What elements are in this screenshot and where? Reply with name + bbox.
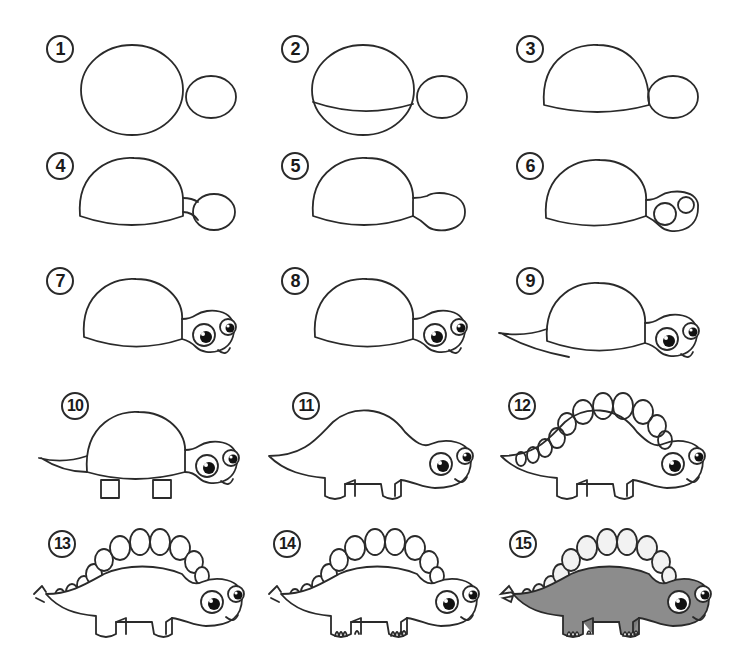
step-15-drawing <box>497 530 740 660</box>
step-panel-2: 2 <box>275 35 521 165</box>
step-13-drawing <box>30 530 276 660</box>
step-2-drawing <box>275 35 521 165</box>
step-panel-9: 9 <box>497 265 740 395</box>
step-11-drawing <box>265 392 511 522</box>
step-4-drawing <box>40 150 286 280</box>
step-panel-8: 8 <box>275 265 521 395</box>
step-6-drawing <box>510 150 740 280</box>
step-panel-6: 6 <box>510 150 740 280</box>
step-12-drawing <box>497 392 740 522</box>
step-panel-5: 5 <box>275 150 521 280</box>
step-panel-13: 13 <box>30 530 276 660</box>
step-panel-4: 4 <box>40 150 286 280</box>
step-panel-7: 7 <box>40 265 286 395</box>
step-panel-12: 12 <box>497 392 740 522</box>
step-3-drawing <box>510 35 740 165</box>
step-1-drawing <box>40 35 286 165</box>
step-14-drawing <box>265 530 511 660</box>
step-panel-14: 14 <box>265 530 511 660</box>
step-panel-15: 15 <box>497 530 740 660</box>
step-panel-11: 11 <box>265 392 511 522</box>
step-10-drawing <box>35 392 281 522</box>
step-5-drawing <box>275 150 521 280</box>
step-panel-1: 1 <box>40 35 286 165</box>
step-panel-10: 10 <box>35 392 281 522</box>
step-7-drawing <box>40 265 286 395</box>
step-8-drawing <box>275 265 521 395</box>
step-panel-3: 3 <box>510 35 740 165</box>
step-9-drawing <box>497 265 740 395</box>
